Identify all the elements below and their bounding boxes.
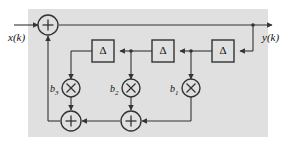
output-label: y(k) (262, 32, 279, 43)
delay-block-2-label: Δ (152, 45, 174, 56)
coefficient-sub-b1: 1 (175, 89, 179, 97)
coefficient-sub-b3: 3 (55, 89, 59, 97)
delay-block-1-label: Δ (92, 45, 114, 56)
junction-dot-delay3-out (189, 49, 193, 53)
coefficient-label-b3: b3 (50, 84, 59, 97)
junction-dot-delay2-out (129, 49, 133, 53)
figure-canvas: Δ Δ Δ x(k) y(k) b3 b2 b1 (0, 0, 292, 147)
coefficient-label-b1: b1 (170, 84, 179, 97)
junction-dot-output-tap (251, 23, 255, 27)
input-label: x(k) (8, 32, 25, 43)
delay-block-3-label: Δ (212, 45, 234, 56)
filter-block-diagram (0, 0, 292, 147)
coefficient-sub-b2: 2 (115, 89, 119, 97)
coefficient-label-b2: b2 (110, 84, 119, 97)
